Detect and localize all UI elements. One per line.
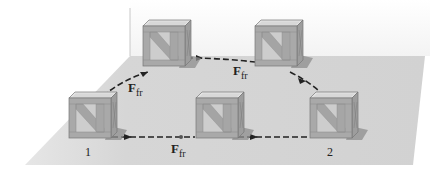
position-1-label: 1: [85, 145, 91, 160]
friction-force-label-curved-left: Ffr: [128, 80, 143, 98]
position-2-label: 2: [327, 145, 333, 160]
friction-point: [179, 135, 183, 139]
diagram-graphics: [0, 0, 441, 173]
friction-force-label-straight: Ffr: [171, 141, 186, 159]
friction-force-label-curved-top: Ffr: [233, 63, 248, 81]
friction-path-diagram: Ffr Ffr Ffr 1 2: [0, 0, 441, 173]
